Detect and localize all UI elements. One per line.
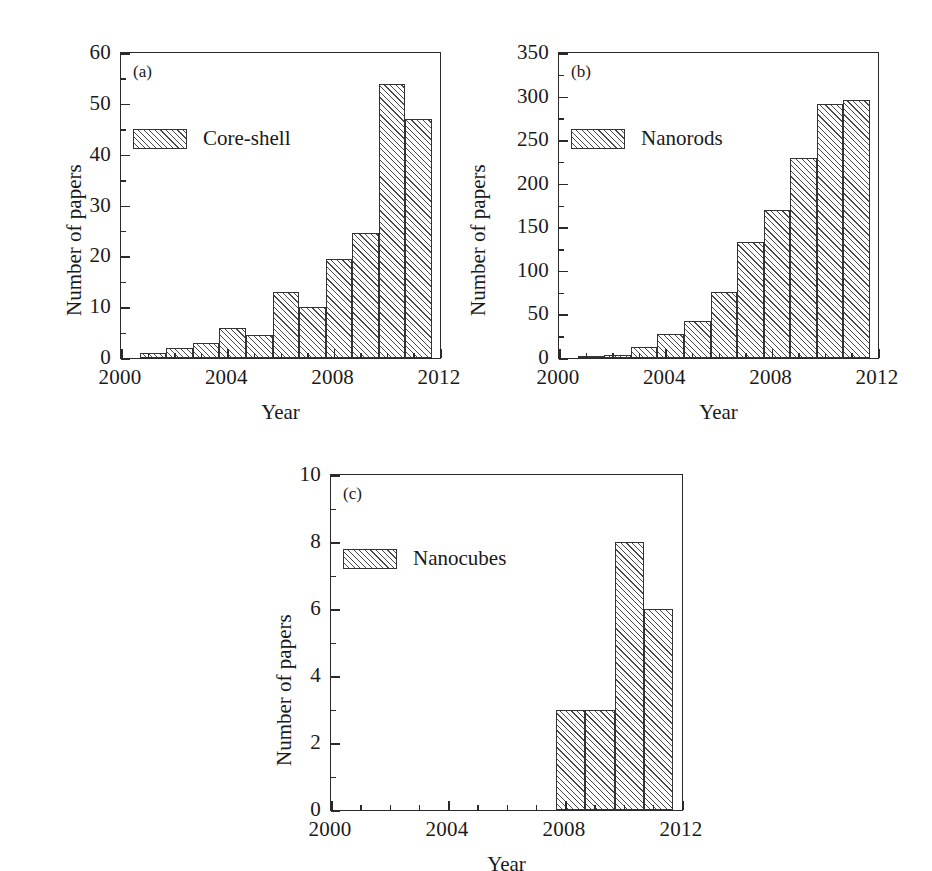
plot-area-b: [559, 53, 878, 358]
bar: [843, 100, 870, 358]
x-tick-major: [682, 801, 684, 810]
y-tick-label: 10: [300, 462, 321, 487]
y-tick-minor: [121, 78, 126, 80]
y-tick-label: 4: [310, 663, 321, 688]
x-tick-minor: [851, 353, 853, 358]
y-tick-label: 200: [517, 170, 549, 195]
bar: [631, 347, 658, 358]
x-tick-minor: [254, 353, 256, 358]
x-tick-label: 2008: [311, 365, 354, 390]
y-tick-label: 150: [517, 214, 549, 239]
x-tick-minor: [692, 353, 694, 358]
x-tick-label: 2004: [643, 365, 686, 390]
x-tick-minor: [390, 805, 392, 810]
y-axis-title-a: Number of papers: [62, 164, 87, 316]
x-tick-minor: [745, 353, 747, 358]
y-tick-label: 50: [528, 301, 549, 326]
y-tick-minor: [121, 129, 126, 131]
legend-label-nanorods: Nanorods: [641, 126, 723, 151]
legend-swatch-nanorods: [571, 129, 625, 149]
y-tick-minor: [331, 777, 336, 779]
x-axis-title-c: Year: [330, 852, 683, 871]
x-tick-minor: [719, 353, 721, 358]
y-tick-major: [121, 53, 130, 55]
x-tick-major: [334, 349, 336, 358]
plot-area-a: [121, 53, 440, 358]
x-tick-label: 2000: [309, 817, 352, 842]
bar: [684, 321, 711, 358]
x-tick-major: [772, 349, 774, 358]
bar: [166, 348, 193, 358]
y-tick-label: 100: [517, 257, 549, 282]
y-tick-major: [559, 227, 568, 229]
y-tick-minor: [331, 576, 336, 578]
y-tick-label: 10: [90, 294, 111, 319]
bar: [352, 233, 379, 358]
bar: [790, 158, 817, 358]
y-tick-major: [331, 542, 340, 544]
plot-frame-a: [120, 52, 441, 359]
x-tick-label: 2012: [856, 365, 899, 390]
x-tick-label: 2008: [749, 365, 792, 390]
x-tick-major: [448, 801, 450, 810]
x-tick-major: [878, 349, 880, 358]
y-tick-major: [559, 53, 568, 55]
y-tick-minor: [559, 206, 564, 208]
x-tick-minor: [360, 805, 362, 810]
y-tick-minor: [331, 710, 336, 712]
y-tick-label: 2: [310, 730, 321, 755]
x-tick-major: [665, 349, 667, 358]
bar: [246, 335, 273, 358]
y-tick-label: 350: [517, 40, 549, 65]
panel-tag-c: (c): [343, 484, 362, 504]
y-axis-title-b: Number of papers: [466, 164, 491, 316]
y-tick-major: [331, 676, 340, 678]
y-tick-minor: [559, 118, 564, 120]
bar: [379, 84, 406, 359]
y-tick-major: [121, 358, 130, 360]
x-tick-minor: [413, 353, 415, 358]
y-tick-label: 40: [90, 141, 111, 166]
x-tick-minor: [639, 353, 641, 358]
bar: [764, 210, 791, 358]
panel-b: (b) Nanorods Year Number of papers 05010…: [438, 0, 932, 435]
y-tick-label: 50: [90, 90, 111, 115]
x-tick-minor: [612, 353, 614, 358]
legend-c: Nanocubes: [343, 546, 506, 571]
y-tick-minor: [559, 336, 564, 338]
y-tick-major: [121, 104, 130, 106]
bar: [604, 355, 631, 358]
y-tick-major: [121, 307, 130, 309]
legend-label-nanocubes: Nanocubes: [413, 546, 506, 571]
x-tick-minor: [507, 805, 509, 810]
y-tick-major: [559, 140, 568, 142]
x-tick-label: 2000: [99, 365, 142, 390]
y-tick-major: [331, 609, 340, 611]
legend-swatch-core-shell: [133, 129, 187, 149]
legend-label-core-shell: Core-shell: [203, 126, 290, 151]
y-tick-major: [121, 256, 130, 258]
x-tick-minor: [148, 353, 150, 358]
bar: [585, 710, 614, 811]
bar: [219, 328, 246, 359]
bar: [657, 334, 684, 358]
x-tick-label: 2000: [537, 365, 580, 390]
x-tick-label: 2012: [660, 817, 703, 842]
x-tick-major: [121, 349, 123, 358]
legend-swatch-nanocubes: [343, 549, 397, 569]
y-tick-major: [559, 271, 568, 273]
plot-frame-b: [558, 52, 879, 359]
y-tick-label: 30: [90, 192, 111, 217]
x-tick-minor: [307, 353, 309, 358]
x-tick-minor: [624, 805, 626, 810]
bar: [711, 292, 738, 358]
plot-area-c: [331, 475, 682, 810]
y-tick-major: [559, 358, 568, 360]
y-tick-minor: [559, 293, 564, 295]
y-tick-minor: [559, 162, 564, 164]
y-tick-minor: [121, 282, 126, 284]
bar: [737, 242, 764, 358]
x-tick-minor: [360, 353, 362, 358]
y-tick-minor: [331, 643, 336, 645]
bar: [817, 104, 844, 358]
